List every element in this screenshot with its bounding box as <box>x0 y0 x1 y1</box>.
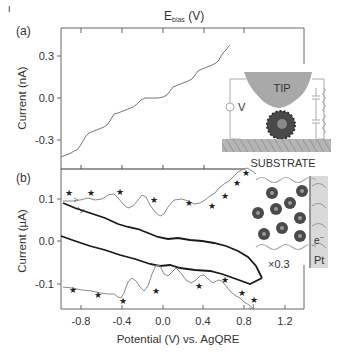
solution-boundary-bottom <box>256 245 316 250</box>
panel-b-ytick-label: 0.0 <box>39 235 54 247</box>
star-icon: ★ <box>250 295 258 305</box>
electrode-inset: e− Pt <box>252 176 328 268</box>
panel-b: (b) -0.8 -0.4 0.0 0.4 0.8 1.2 Potential … <box>16 168 328 345</box>
star-icon: ★ <box>69 285 77 295</box>
star-icon: ★ <box>233 178 241 188</box>
star-icon: ★ <box>116 187 124 197</box>
star-icon: ★ <box>195 281 203 291</box>
circuit-wire-right <box>312 79 324 139</box>
voltage-source-icon <box>226 103 234 111</box>
star-icon: ★ <box>65 188 73 198</box>
scale-annotation: ×0.3 <box>268 258 290 270</box>
panel-b-x-axis-label: Potential (V) vs. AgQRE <box>117 333 240 345</box>
tip-label: TIP <box>273 82 290 94</box>
panel-b-xtick-label: -0.4 <box>113 315 132 327</box>
top-axis-title: Ebias (V) <box>164 9 204 23</box>
panel-b-ytick-label: 0.1 <box>39 193 54 205</box>
nanoparticle-core <box>277 119 287 129</box>
star-icon: ★ <box>238 288 246 298</box>
figure: I Ebias (V) (a) 0.3 0.0 -0.3 Current (nA… <box>0 0 346 360</box>
star-icon: ★ <box>221 275 229 285</box>
panel-a-y-axis-label: Current (nA) <box>16 66 28 129</box>
panel-a-ytick-label: 0.0 <box>39 92 54 104</box>
star-icon: ★ <box>152 286 160 296</box>
star-icon: ★ <box>150 195 158 205</box>
stm-inset: V TIP <box>222 72 331 169</box>
substrate-label: SUBSTRATE <box>250 157 315 169</box>
panel-b-xtick-label: 0.0 <box>155 315 170 327</box>
panel-b-xtick-label: 0.8 <box>236 315 251 327</box>
panel-b-y-axis-label: Current (µA) <box>16 209 28 273</box>
panel-a-label: (a) <box>16 24 31 38</box>
solution-boundary-top <box>256 178 316 183</box>
pt-label: Pt <box>314 254 324 266</box>
substrate <box>222 139 331 152</box>
star-icon: ★ <box>94 290 102 300</box>
star-icon: ★ <box>208 201 216 211</box>
star-icon: ★ <box>185 198 193 208</box>
panel-b-ytick-label: -0.1 <box>35 278 54 290</box>
panel-a-y-ticks <box>57 56 61 140</box>
nanoparticles <box>252 185 308 242</box>
panel-b-xtick-label: 0.4 <box>195 315 210 327</box>
star-icon: ★ <box>242 168 250 178</box>
star-icon: ★ <box>221 191 229 201</box>
voltage-label: V <box>238 101 246 113</box>
star-icon: ★ <box>119 296 127 306</box>
panel-a-top-ticks <box>81 28 244 33</box>
panel-a-ytick-label: -0.3 <box>35 134 54 146</box>
panel-b-xtick-label: 1.2 <box>277 315 292 327</box>
star-icon: ★ <box>87 188 95 198</box>
panel-b-x-ticks <box>81 305 285 309</box>
panel-a-ytick-label: 0.3 <box>39 50 54 62</box>
panel-b-label: (b) <box>16 171 31 185</box>
panel-a-iv-curve <box>61 45 230 157</box>
panel-b-y-ticks <box>57 199 61 284</box>
panel-a: (a) 0.3 0.0 -0.3 Current (nA) <box>16 24 331 169</box>
rc-circuit-icon <box>312 88 326 139</box>
panel-b-xtick-label: -0.8 <box>72 315 91 327</box>
cv-lower-branch <box>61 236 262 284</box>
corner-mark: I <box>8 4 11 14</box>
